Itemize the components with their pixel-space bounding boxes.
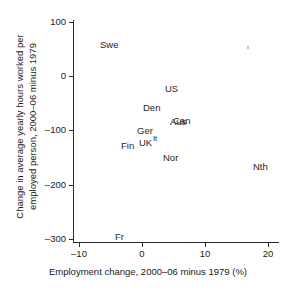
scatter-plot-figure: 100 0 –100 –200 –300 –10 0 10 20 Employm…: [0, 0, 296, 293]
y-axis-title-line1: Change in average yearly hours worked pe…: [14, 7, 27, 247]
x-tick-label-neg10: –10: [59, 249, 99, 259]
x-tick-mark-10: [205, 243, 206, 247]
x-tick-mark-neg10: [79, 243, 80, 247]
y-axis-line: [73, 20, 74, 243]
scan-speck-artifact: [247, 46, 249, 49]
y-tick-mark-neg300: [69, 239, 73, 240]
x-axis-line: [73, 242, 279, 243]
x-axis-title: Employment change, 2000–06 minus 1979 (%…: [0, 266, 296, 277]
data-point-label-us: US: [165, 84, 178, 94]
x-tick-mark-20: [268, 243, 269, 247]
data-point-label-fr: Fr: [115, 232, 124, 242]
data-point-label-nor: Nor: [163, 153, 178, 163]
data-point-label-uk: UK: [139, 138, 152, 148]
x-tick-label-10: 10: [185, 249, 225, 259]
y-tick-mark-100: [69, 22, 73, 23]
y-axis-title-line2: employed person, 2000–06 minus 1979: [26, 7, 39, 247]
y-tick-mark-neg200: [69, 185, 73, 186]
data-point-label-it: It: [153, 134, 157, 144]
data-point-label-ger: Ger: [137, 126, 153, 136]
data-point-label-den: Den: [143, 103, 160, 113]
y-tick-mark-0: [69, 76, 73, 77]
x-tick-label-20: 20: [248, 249, 288, 259]
data-point-label-fin: Fin: [121, 141, 134, 151]
y-axis-title: Change in average yearly hours worked pe…: [14, 7, 39, 247]
x-tick-mark-0: [142, 243, 143, 247]
data-point-label-swe: Swe: [100, 40, 118, 50]
data-point-label-aus: Aus: [170, 117, 186, 127]
data-point-label-nth: Nth: [253, 162, 268, 172]
x-tick-label-0: 0: [122, 249, 162, 259]
cropped-caption-artifact: [14, 0, 274, 4]
y-tick-mark-neg100: [69, 130, 73, 131]
